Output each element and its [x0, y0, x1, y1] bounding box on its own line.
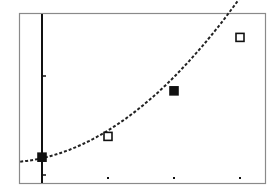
x-tick-dot: [173, 177, 175, 179]
filled-square-marker: [38, 153, 46, 161]
open-square-marker: [236, 33, 244, 41]
x-tick-dot: [239, 177, 241, 179]
open-square-marker: [104, 132, 112, 140]
plot-frame: [20, 14, 266, 184]
filled-square-marker: [170, 87, 178, 95]
x-tick-dot: [41, 177, 43, 179]
calculator-plot: [0, 0, 277, 188]
x-tick-dot: [107, 177, 109, 179]
